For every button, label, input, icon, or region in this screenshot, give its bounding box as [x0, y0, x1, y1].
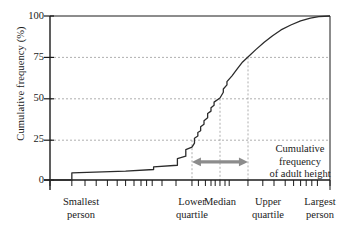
x-label-line2: person: [67, 209, 95, 220]
x-label-largest-person: Largest person: [292, 196, 348, 221]
iqr-caption-line1: Cumulative: [276, 143, 325, 154]
x-label-line2: quartile: [252, 209, 284, 220]
y-tick-label-75: 75: [14, 51, 44, 62]
gridlines: [50, 57, 330, 140]
x-label-line2: quartile: [176, 209, 208, 220]
x-label-line1: Upper: [255, 196, 281, 207]
y-tick-label-25: 25: [14, 133, 44, 144]
x-label-line1: Median: [204, 196, 236, 207]
y-axis-ticks: [44, 16, 54, 180]
x-label-line1: Smallest: [63, 196, 99, 207]
y-tick-label-50: 50: [14, 92, 44, 103]
x-label-line1: Largest: [304, 196, 335, 207]
y-tick-label-100: 100: [14, 10, 44, 21]
iqr-caption: Cumulative frequency of adult height: [254, 143, 346, 181]
y-tick-label-0: 0: [14, 174, 44, 185]
iqr-caption-line2: frequency: [279, 156, 321, 167]
x-label-median: Median: [197, 196, 243, 209]
x-label-line2: person: [306, 209, 334, 220]
x-label-smallest-person: Smallest person: [48, 196, 114, 221]
iqr-caption-line3: of adult height: [269, 168, 330, 179]
cumulative-frequency-chart: Cumulative frequency (%) 100 75 50 25 0: [0, 0, 349, 237]
x-label-upper-quartile: Upper quartile: [239, 196, 297, 221]
x-axis-ticks: [50, 180, 330, 186]
